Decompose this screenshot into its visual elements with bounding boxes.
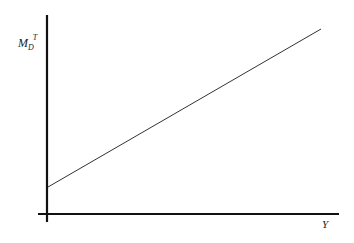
x-axis-label: Y: [322, 218, 330, 230]
demand-line: [48, 29, 321, 187]
y-axis-label: MDT: [17, 33, 38, 52]
money-demand-diagram: MDT Y: [0, 0, 354, 243]
